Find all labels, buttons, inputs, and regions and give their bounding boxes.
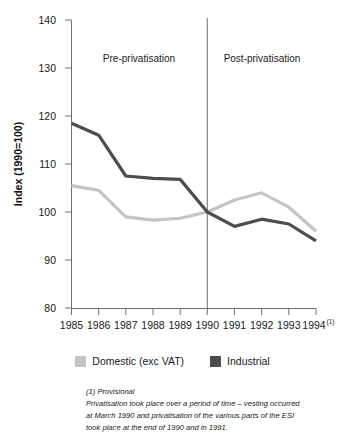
footnote-line-3: at March 1990 and privatisation of the v…: [86, 410, 338, 422]
legend-label-industrial: Industrial: [227, 356, 270, 367]
legend-item-domestic[interactable]: Domestic (exc VAT): [75, 356, 184, 367]
x-tick-label-1989: 1989: [169, 319, 193, 331]
y-tick-label-100: 100: [38, 206, 56, 218]
chart-footnote: (1) Provisional Privatisation took place…: [86, 386, 338, 434]
y-axis-title: Index (1990=100): [12, 122, 24, 206]
chart-container: Index (1990=100) 140 130 120 110 100 90 …: [0, 0, 345, 442]
x-tick-label-1986: 1986: [87, 319, 111, 331]
x-tick-label-1991: 1991: [223, 319, 247, 331]
x-tick-label-1994: 1994: [302, 319, 326, 331]
y-tick-label-110: 110: [39, 158, 56, 170]
x-tick-label-1993: 1993: [277, 319, 301, 331]
legend-swatch-industrial-icon: [210, 356, 221, 367]
series-line-domestic: [72, 186, 317, 232]
x-tick-label-1990: 1990: [196, 319, 220, 331]
y-tick-label-130: 130: [38, 62, 56, 74]
x-tick-label-1985: 1985: [60, 319, 84, 331]
series-line-industrial: [72, 123, 317, 241]
footnote-line-4: took place at the end of 1990 and in 199…: [86, 422, 338, 434]
y-tick-label-140: 140: [38, 14, 56, 26]
y-tick-label-120: 120: [38, 110, 56, 122]
legend-swatch-domestic-icon: [75, 356, 86, 367]
footnote-line-1: (1) Provisional: [86, 386, 338, 398]
post-privatisation-label: Post-privatisation: [224, 53, 301, 64]
pre-privatisation-label: Pre-privatisation: [103, 53, 175, 64]
x-tick-label-1994-superscript: (1): [327, 318, 335, 326]
y-tick-label-90: 90: [44, 254, 56, 266]
legend-label-domestic: Domestic (exc VAT): [92, 356, 184, 367]
x-tick-label-1988: 1988: [141, 319, 165, 331]
footnote-line-2: Privatisation took place over a period o…: [86, 398, 338, 410]
x-tick-label-1987: 1987: [114, 319, 138, 331]
y-tick-label-80: 80: [44, 302, 56, 314]
chart-legend: Domestic (exc VAT) Industrial: [0, 356, 345, 367]
line-chart-plot: Index (1990=100) 140 130 120 110 100 90 …: [0, 0, 345, 345]
x-tick-label-1992: 1992: [250, 319, 274, 331]
legend-item-industrial[interactable]: Industrial: [210, 356, 270, 367]
